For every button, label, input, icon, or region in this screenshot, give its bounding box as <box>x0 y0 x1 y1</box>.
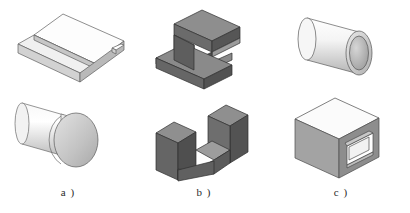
figure-panel-c: c ) <box>273 0 409 213</box>
shape-u-channel-block <box>136 86 272 186</box>
shape-stepped-plate <box>0 2 136 94</box>
figure-container: a ) <box>0 0 410 213</box>
shape-hollow-tube <box>273 2 409 94</box>
shape-box-with-through-hole <box>273 86 409 186</box>
panel-caption-c: c ) <box>273 186 409 198</box>
figure-panel-b: b ) <box>136 0 272 213</box>
panel-caption-b: b ) <box>136 186 272 198</box>
shape-flanged-cylinder <box>0 86 136 186</box>
panel-caption-a: a ) <box>0 186 136 198</box>
shape-c-channel-block <box>136 2 272 94</box>
figure-panel-a: a ) <box>0 0 136 213</box>
